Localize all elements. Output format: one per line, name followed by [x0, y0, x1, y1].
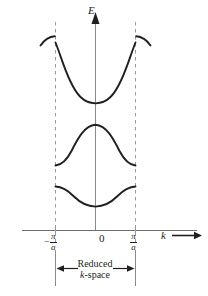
fraction-pi-over-a: π a: [50, 232, 57, 252]
band-fragment-top-right: [136, 36, 150, 45]
fraction-denominator: a: [130, 243, 137, 252]
k-axis-arrow: [172, 232, 202, 239]
caption-space-suffix: -space: [84, 269, 110, 280]
reduced-k-space-caption: Reduced k-space: [62, 258, 128, 280]
x-tick-label-origin: 0: [99, 233, 105, 244]
caption-line-2: k-space: [62, 269, 128, 280]
band-fragment-top-left: [41, 36, 55, 45]
x-tick-label-left: − π a: [44, 232, 57, 252]
fraction-numerator: π: [50, 232, 57, 241]
fraction-numerator: π: [130, 232, 137, 241]
y-axis-label: E: [88, 5, 95, 16]
fraction-pi-over-a: π a: [130, 232, 137, 252]
x-axis-label: k: [161, 230, 166, 241]
band-diagram-canvas: [0, 0, 208, 296]
x-tick-label-right: π a: [130, 232, 137, 252]
fraction-denominator: a: [50, 243, 57, 252]
caption-line-1: Reduced: [78, 258, 113, 269]
band-diagram-figure: E k 0 − π a π a Reduced k-space: [0, 0, 208, 296]
